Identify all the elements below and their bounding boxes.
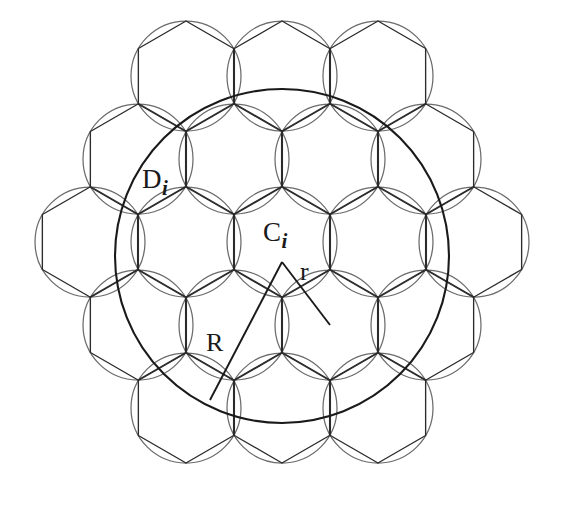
cell-hexagon-8: [138, 187, 233, 297]
cell-hexagon-10: [330, 187, 425, 297]
cell-circle-0: [131, 21, 241, 131]
cell-hexagon-16: [138, 353, 233, 463]
label-cell-center-subscript: i: [282, 229, 288, 253]
hex-coverage-diagram: [0, 0, 562, 513]
label-outer-radius: R: [206, 330, 223, 356]
cell-hexagon-6: [378, 104, 473, 214]
label-coverage-disc: Di: [142, 166, 168, 199]
cell-hexagon-2: [330, 21, 425, 131]
cell-hexagon-3: [90, 104, 185, 214]
cell-circle-18: [323, 353, 433, 463]
cell-hexagon-18: [330, 353, 425, 463]
cell-circle-15: [371, 270, 481, 380]
cell-circle-3: [83, 104, 193, 214]
cell-circle-5: [275, 104, 385, 214]
label-coverage-disc-subscript: i: [162, 176, 168, 200]
cell-circle-8: [131, 187, 241, 297]
cell-hexagon-5: [282, 104, 377, 214]
cell-circle-7: [35, 187, 145, 297]
cell-circle-2: [323, 21, 433, 131]
cell-hexagon-12: [90, 270, 185, 380]
label-coverage-disc-base: D: [142, 164, 162, 194]
cell-circle-16: [131, 353, 241, 463]
cell-hexagon-1: [234, 21, 329, 131]
cell-circle-1: [227, 21, 337, 131]
label-inner-radius: r: [300, 259, 309, 285]
cell-hexagon-13: [186, 270, 281, 380]
cell-hexagon-4: [186, 104, 281, 214]
label-cell-center: Ci: [263, 219, 287, 252]
label-cell-center-base: C: [263, 217, 281, 247]
cell-circle-4: [179, 104, 289, 214]
cell-circle-13: [179, 270, 289, 380]
cell-hexagon-17: [234, 353, 329, 463]
cell-hexagon-15: [378, 270, 473, 380]
cell-hexagon-0: [138, 21, 233, 131]
figure-root: Di Ci R r: [0, 0, 562, 513]
cell-circle-6: [371, 104, 481, 214]
cell-circle-10: [323, 187, 433, 297]
cell-circle-11: [419, 187, 529, 297]
cell-circle-17: [227, 353, 337, 463]
cell-circle-12: [83, 270, 193, 380]
